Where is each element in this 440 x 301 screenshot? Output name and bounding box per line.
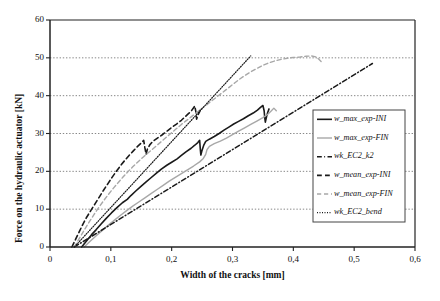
legend-item-label[interactable]: w_mean_exp-INI	[334, 170, 390, 179]
legend-item-label[interactable]: w_mean_exp-FIN	[334, 189, 393, 198]
x-axis-tick-label: 0,2	[157, 254, 187, 264]
legend-item-label[interactable]: wk_EC2_k2	[334, 151, 374, 160]
y-axis-tick-label: 60	[18, 14, 44, 24]
x-axis-title: Width of the cracks [mm]	[50, 270, 415, 280]
legend-box	[313, 110, 405, 222]
legend-item-label[interactable]: w_max_exp-INI	[334, 114, 386, 123]
y-axis-title: Force on the hydraulic actuator [kN]	[14, 94, 24, 243]
chart-figure: 010203040506000,10,20,30,40,50,6Width of…	[0, 0, 440, 301]
legend-item-label[interactable]: wk_EC2_bend	[334, 207, 382, 216]
x-axis-tick-label: 0,1	[96, 254, 126, 264]
legend-item-label[interactable]: w_max_exp-FIN	[334, 133, 389, 142]
x-axis-tick-label: 0,6	[400, 254, 430, 264]
x-axis-tick-label: 0	[35, 254, 65, 264]
x-axis-tick-label: 0,3	[218, 254, 248, 264]
y-axis-tick-label: 50	[18, 52, 44, 62]
x-axis-tick-label: 0,5	[339, 254, 369, 264]
x-axis-tick-label: 0,4	[278, 254, 308, 264]
